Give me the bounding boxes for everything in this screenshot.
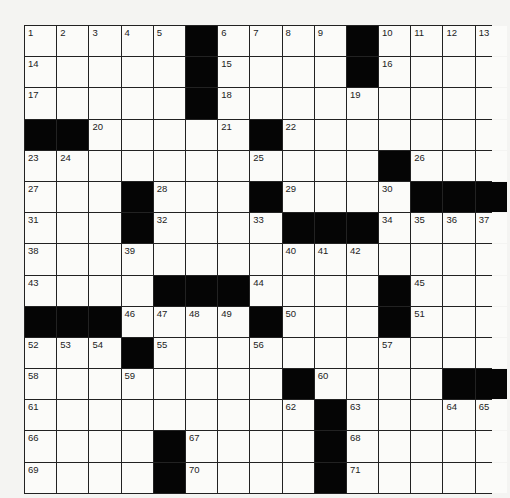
grid-cell[interactable]: 40 [283,244,314,274]
grid-cell[interactable] [218,182,249,212]
grid-cell[interactable]: 16 [379,57,410,87]
grid-cell[interactable] [89,369,120,399]
grid-cell[interactable] [89,400,120,430]
grid-cell[interactable] [379,463,410,493]
grid-cell[interactable] [218,369,249,399]
grid-cell[interactable] [443,276,474,306]
grid-cell[interactable]: 58 [25,369,56,399]
grid-cell[interactable] [122,463,153,493]
grid-cell[interactable] [89,57,120,87]
grid-cell[interactable]: 54 [89,338,120,368]
grid-cell[interactable] [250,88,281,118]
grid-cell[interactable]: 59 [122,369,153,399]
grid-cell[interactable] [347,307,378,337]
grid-cell[interactable]: 42 [347,244,378,274]
grid-cell[interactable]: 18 [218,88,249,118]
grid-cell[interactable]: 60 [315,369,346,399]
grid-cell[interactable] [347,369,378,399]
grid-cell[interactable]: 26 [411,151,442,181]
grid-cell[interactable] [443,151,474,181]
grid-cell[interactable] [476,151,507,181]
grid-cell[interactable] [283,151,314,181]
grid-cell[interactable] [411,463,442,493]
grid-cell[interactable]: 5 [154,26,185,56]
grid-cell[interactable] [315,338,346,368]
grid-cell[interactable] [89,182,120,212]
grid-cell[interactable] [57,400,88,430]
grid-cell[interactable] [154,88,185,118]
grid-cell[interactable] [315,57,346,87]
grid-cell[interactable]: 27 [25,182,56,212]
grid-cell[interactable]: 71 [347,463,378,493]
grid-cell[interactable] [283,431,314,461]
grid-cell[interactable] [379,369,410,399]
grid-cell[interactable] [218,151,249,181]
grid-cell[interactable] [315,88,346,118]
grid-cell[interactable] [443,57,474,87]
grid-cell[interactable] [476,57,507,87]
grid-cell[interactable]: 41 [315,244,346,274]
grid-cell[interactable] [411,120,442,150]
grid-cell[interactable] [315,120,346,150]
grid-cell[interactable]: 10 [379,26,410,56]
grid-cell[interactable] [379,244,410,274]
grid-cell[interactable]: 13 [476,26,507,56]
grid-cell[interactable]: 14 [25,57,56,87]
grid-cell[interactable]: 47 [154,307,185,337]
grid-cell[interactable]: 3 [89,26,120,56]
grid-cell[interactable] [379,431,410,461]
grid-cell[interactable]: 17 [25,88,56,118]
grid-cell[interactable]: 34 [379,213,410,243]
grid-cell[interactable] [122,57,153,87]
grid-cell[interactable]: 23 [25,151,56,181]
grid-cell[interactable] [379,120,410,150]
grid-cell[interactable]: 19 [347,88,378,118]
grid-cell[interactable]: 53 [57,338,88,368]
grid-cell[interactable] [89,431,120,461]
grid-cell[interactable]: 9 [315,26,346,56]
grid-cell[interactable] [476,88,507,118]
grid-cell[interactable] [154,120,185,150]
grid-cell[interactable]: 28 [154,182,185,212]
grid-cell[interactable] [57,57,88,87]
grid-cell[interactable] [379,400,410,430]
grid-cell[interactable] [218,213,249,243]
grid-cell[interactable]: 21 [218,120,249,150]
grid-cell[interactable]: 48 [186,307,217,337]
grid-cell[interactable] [283,338,314,368]
grid-cell[interactable] [186,120,217,150]
grid-cell[interactable]: 57 [379,338,410,368]
grid-cell[interactable] [283,276,314,306]
grid-cell[interactable] [250,369,281,399]
grid-cell[interactable]: 25 [250,151,281,181]
grid-cell[interactable] [186,151,217,181]
grid-cell[interactable] [154,400,185,430]
grid-cell[interactable] [122,276,153,306]
grid-cell[interactable] [347,276,378,306]
grid-cell[interactable] [57,244,88,274]
grid-cell[interactable] [476,431,507,461]
grid-cell[interactable] [443,244,474,274]
grid-cell[interactable]: 64 [443,400,474,430]
grid-cell[interactable] [476,120,507,150]
grid-cell[interactable] [122,151,153,181]
grid-cell[interactable]: 67 [186,431,217,461]
grid-cell[interactable]: 51 [411,307,442,337]
grid-cell[interactable] [57,276,88,306]
grid-cell[interactable] [283,88,314,118]
grid-cell[interactable] [154,57,185,87]
grid-cell[interactable] [315,276,346,306]
grid-cell[interactable] [347,151,378,181]
grid-cell[interactable]: 24 [57,151,88,181]
grid-cell[interactable]: 56 [250,338,281,368]
grid-cell[interactable]: 66 [25,431,56,461]
grid-cell[interactable] [154,244,185,274]
grid-cell[interactable] [218,463,249,493]
grid-cell[interactable] [89,151,120,181]
grid-cell[interactable] [347,120,378,150]
grid-cell[interactable]: 39 [122,244,153,274]
grid-cell[interactable]: 8 [283,26,314,56]
grid-cell[interactable] [218,431,249,461]
grid-cell[interactable] [186,182,217,212]
grid-cell[interactable] [315,307,346,337]
